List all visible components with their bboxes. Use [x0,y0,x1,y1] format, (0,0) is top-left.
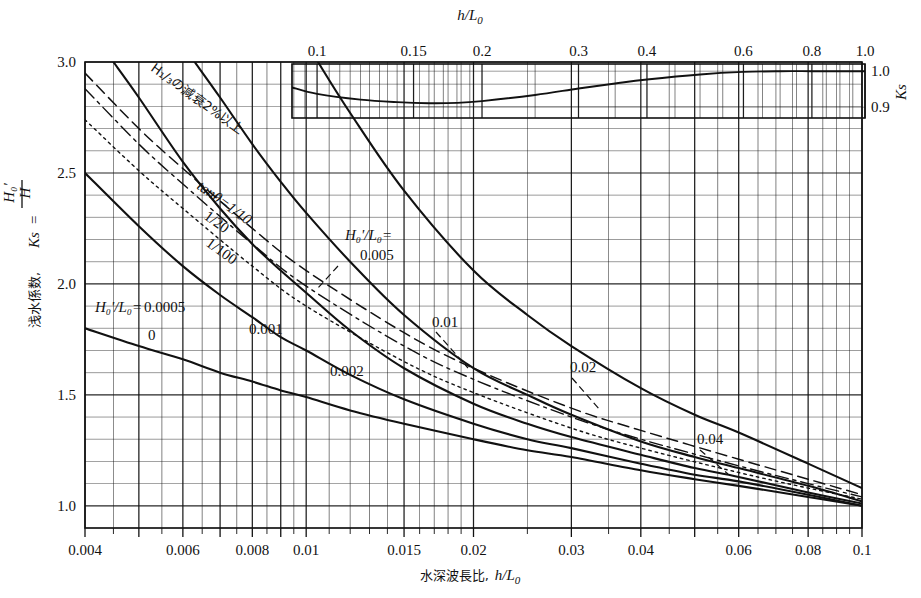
curve-label-h0l0-right: H₀'/L₀= [344,227,392,243]
inset-x-tick-label: 0.6 [734,43,753,59]
inset-x-tick-label: 0.2 [473,43,492,59]
x-tick-label: 0.08 [795,542,821,558]
figure-root: 0.0040.0060.0080.010.0150.020.030.040.06… [0,0,921,598]
inset-x-tick-label: 0.3 [569,43,588,59]
main-y-axis-title-sym: Ks [26,232,42,249]
curve-label-0: 0 [148,327,156,343]
inset-x-tick-label: 0.4 [638,43,657,59]
inset-y-axis-title: Ks [893,84,909,101]
curve-label-0-001: 0.001 [249,321,283,337]
curve-label-h0l0-left: H₀'/L₀=0.0005 [94,299,185,315]
x-tick-label: 0.008 [235,542,269,558]
fraction-denominator: H₀' [1,183,17,204]
curve-label-0-01: 0.01 [432,314,458,330]
curve-label-0-04: 0.04 [697,431,724,447]
inset-x-tick-label: 0.8 [803,43,822,59]
inset-x-tick-label: 1.0 [856,43,875,59]
y-tick-label: 3.0 [57,54,76,70]
y-tick-label: 2.0 [57,276,76,292]
x-tick-label: 0.01 [293,542,319,558]
x-tick-label: 0.1 [853,542,872,558]
x-tick-label: 0.03 [558,542,584,558]
inset-x-tick-label: 0.1 [308,43,327,59]
x-tick-label: 0.006 [166,542,200,558]
shoaling-coefficient-chart: 0.0040.0060.0080.010.0150.020.030.040.06… [0,0,921,598]
inset-x-tick-label: 0.15 [400,43,426,59]
curve-label-0-02: 0.02 [570,359,596,375]
y-tick-label: 1.5 [57,387,76,403]
main-x-tick-labels: 0.0040.0060.0080.010.0150.020.030.040.06… [68,542,871,558]
main-y-axis-title-jp: 浅水係数, [27,272,42,328]
fraction-numerator: H [17,186,33,199]
y-tick-label: 2.5 [57,165,76,181]
inset-y-tick-label: 1.0 [871,63,890,79]
inset-y-tick-label: 0.9 [871,99,890,115]
y-tick-label: 1.0 [57,498,76,514]
curve-label-0-005: 0.005 [360,247,394,263]
main-y-axis-title-eq: = [26,216,42,224]
x-tick-label: 0.004 [68,542,102,558]
x-tick-label: 0.015 [387,542,421,558]
x-tick-label: 0.02 [460,542,486,558]
curve-label-0-002: 0.002 [330,363,364,379]
x-tick-label: 0.04 [628,542,655,558]
x-tick-label: 0.06 [726,542,753,558]
